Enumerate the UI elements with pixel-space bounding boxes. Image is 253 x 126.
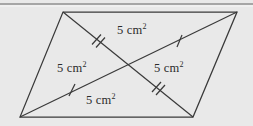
geometry-figure: 5 cm2 5 cm2 5 cm2 5 cm2 — [0, 0, 253, 126]
figure-canvas — [0, 0, 253, 126]
tick-lower-left-segment — [69, 84, 75, 96]
area-label-left: 5 cm2 — [57, 62, 87, 75]
area-label-top-value: 5 cm — [117, 23, 142, 37]
area-label-right-value: 5 cm — [154, 61, 179, 75]
area-label-bottom-value: 5 cm — [86, 93, 111, 107]
area-label-right: 5 cm2 — [154, 62, 184, 75]
area-label-top: 5 cm2 — [117, 24, 147, 37]
area-label-right-exponent: 2 — [179, 60, 183, 69]
area-label-bottom: 5 cm2 — [86, 94, 116, 107]
area-label-left-value: 5 cm — [57, 61, 82, 75]
area-label-bottom-exponent: 2 — [111, 92, 115, 101]
area-label-top-exponent: 2 — [142, 22, 146, 31]
area-label-left-exponent: 2 — [82, 60, 86, 69]
